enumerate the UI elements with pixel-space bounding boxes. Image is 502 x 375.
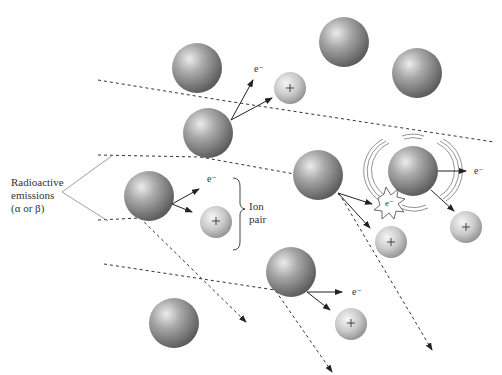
- atoms: [124, 17, 442, 348]
- radioactive-emissions-label: Radioactive emissions (α or β): [11, 176, 64, 215]
- diagram-canvas: [0, 0, 502, 375]
- ionization-diagram: Radioactive emissions (α or β) Ion pair …: [0, 0, 502, 375]
- electron-label-3: e⁻: [474, 164, 484, 177]
- electron-label-1: e⁻: [254, 62, 264, 75]
- label-pointer-lines: [62, 155, 113, 221]
- atom-8: [266, 247, 316, 297]
- electron-label-4: e⁻: [352, 285, 362, 298]
- atom-7: [124, 171, 174, 221]
- ion-pair-line-2: pair: [249, 213, 266, 226]
- atom-6: [388, 146, 438, 196]
- atom-4: [183, 108, 233, 158]
- knocked-electron-label: e⁻: [385, 197, 394, 210]
- label-line-1: Radioactive: [11, 176, 64, 189]
- atom-3: [392, 48, 442, 98]
- ion-pair-label: Ion pair: [249, 200, 266, 226]
- atom-5: [293, 150, 343, 200]
- electron-label-2: e⁻: [207, 172, 217, 185]
- atom-1: [172, 43, 222, 93]
- atom-9: [149, 298, 199, 348]
- label-line-2: emissions: [11, 189, 64, 202]
- ion-pair-brace: [233, 178, 245, 250]
- label-line-3: (α or β): [11, 202, 64, 215]
- atom-2: [319, 17, 369, 67]
- ion-pair-line-1: Ion: [249, 200, 266, 213]
- positive-ions: [200, 72, 482, 340]
